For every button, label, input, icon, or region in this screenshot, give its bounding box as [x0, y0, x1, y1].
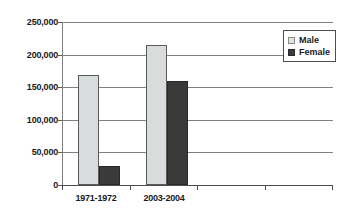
legend-entry-male: Male: [288, 34, 330, 46]
legend-swatch-female-icon: [288, 49, 295, 56]
bar-male-2003-2004: [146, 45, 167, 185]
gridline-100000: [62, 120, 333, 121]
x-tick-mark-1: [130, 185, 131, 190]
y-tick-label-250000: 250,000: [0, 18, 58, 27]
chart-legend: Male Female: [283, 30, 336, 62]
gridline-250000: [62, 22, 333, 23]
x-tick-mark-3: [265, 185, 266, 190]
legend-entry-female: Female: [288, 46, 330, 58]
legend-label-male: Male: [299, 36, 319, 45]
gridline-50000: [62, 152, 333, 153]
x-category-label-2003-2004: 2003-2004: [130, 193, 198, 203]
bar-female-1971-1972: [99, 166, 120, 185]
y-tick-label-200000: 200,000: [0, 51, 58, 60]
bar-female-2003-2004: [167, 81, 188, 185]
y-tick-label-50000: 50,000: [0, 148, 58, 157]
bar-male-1971-1972: [78, 75, 99, 185]
x-tick-mark-4: [332, 185, 333, 190]
gridline-150000: [62, 87, 333, 88]
legend-swatch-male-icon: [288, 37, 295, 44]
y-tick-label-150000: 150,000: [0, 83, 58, 92]
x-tick-mark-0: [62, 185, 63, 190]
y-tick-label-100000: 100,000: [0, 116, 58, 125]
x-tick-mark-2: [197, 185, 198, 190]
legend-label-female: Female: [299, 48, 330, 57]
x-category-label-1971-1972: 1971-1972: [62, 193, 130, 203]
y-tick-label-0: 0: [0, 181, 58, 190]
bar-chart: 250,000 200,000 150,000 100,000 50,000 0…: [0, 0, 353, 213]
